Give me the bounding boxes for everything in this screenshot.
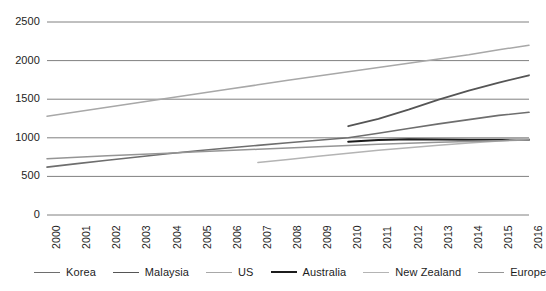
x-tick-label: 2013 — [443, 225, 454, 249]
x-tick-label: 2012 — [413, 225, 424, 249]
x-tick-label: 2005 — [202, 225, 213, 249]
plot-area: 05001000150020002500 2000200120022003200… — [0, 0, 546, 230]
legend-item-us[interactable]: US — [206, 267, 253, 278]
x-tick-label: 2007 — [262, 225, 273, 249]
legend-line-swatch — [113, 272, 139, 273]
x-tick-label: 2002 — [111, 225, 122, 249]
x-tick-label: 2004 — [172, 225, 183, 249]
x-tick-label: 2001 — [81, 225, 92, 249]
legend-label: Australia — [303, 267, 347, 278]
line-chart: 05001000150020002500 2000200120022003200… — [0, 0, 546, 291]
legend-item-australia[interactable]: Australia — [271, 267, 347, 278]
legend-label: Europe — [510, 267, 546, 278]
series-line-malaysia — [348, 75, 529, 126]
x-tick-label: 2000 — [51, 225, 62, 249]
legend-item-malaysia[interactable]: Malaysia — [113, 267, 189, 278]
legend-label: US — [238, 267, 253, 278]
legend-label: Korea — [66, 267, 96, 278]
series-line-us — [47, 45, 529, 116]
x-tick-label: 2015 — [503, 225, 514, 249]
legend-line-swatch — [478, 272, 504, 273]
legend-line-swatch — [206, 272, 232, 273]
x-tick-label: 2011 — [382, 226, 393, 249]
legend-label: Malaysia — [145, 267, 189, 278]
legend-line-swatch — [34, 272, 60, 273]
x-tick-label: 2016 — [533, 225, 544, 249]
legend-item-korea[interactable]: Korea — [34, 267, 96, 278]
legend-line-swatch — [363, 272, 389, 273]
x-tick-label: 2009 — [322, 225, 333, 249]
chart-legend: KoreaMalaysiaUSAustraliaNew ZealandEurop… — [0, 262, 546, 282]
x-tick-label: 2014 — [473, 225, 484, 249]
x-tick-label: 2008 — [292, 225, 303, 249]
legend-item-new-zealand[interactable]: New Zealand — [363, 267, 461, 278]
plot-canvas — [0, 0, 546, 230]
legend-item-europe[interactable]: Europe — [478, 267, 546, 278]
x-tick-label: 2003 — [141, 225, 152, 249]
x-tick-label: 2010 — [352, 225, 363, 249]
x-tick-label: 2006 — [232, 225, 243, 249]
legend-label: New Zealand — [395, 267, 461, 278]
legend-line-swatch — [271, 271, 297, 273]
